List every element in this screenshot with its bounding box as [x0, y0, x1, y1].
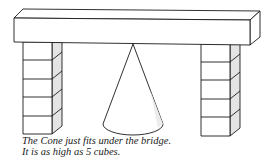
left-cube-column — [23, 42, 62, 134]
bridge-beam — [14, 9, 260, 45]
cone — [103, 44, 163, 135]
caption-line-2: It is as high as 5 cubes. — [22, 147, 171, 158]
right-cube-column — [201, 44, 240, 136]
caption: The Cone just fits under the bridge. It … — [22, 136, 171, 157]
caption-line-1: The Cone just fits under the bridge. — [22, 136, 171, 147]
